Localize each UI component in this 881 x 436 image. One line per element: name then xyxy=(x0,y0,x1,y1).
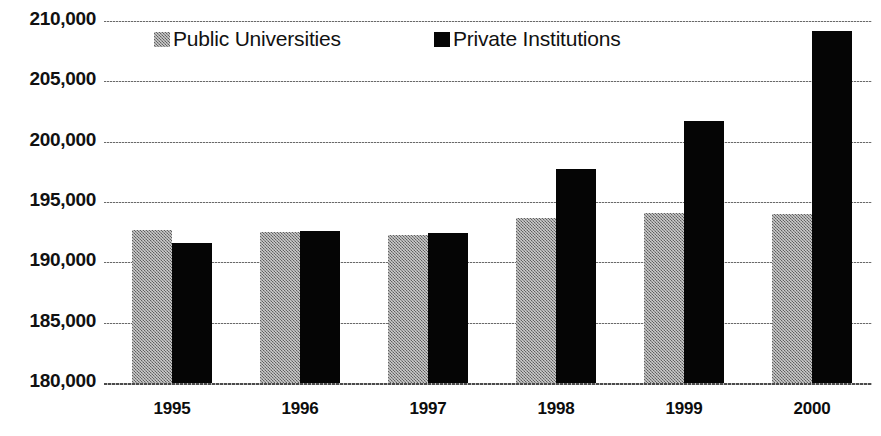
legend-swatch-private-icon xyxy=(434,32,450,47)
y-axis-tick-label: 205,000 xyxy=(8,68,96,90)
y-axis-tick-label: 200,000 xyxy=(8,129,96,151)
gridline xyxy=(104,21,872,22)
bar-1997-public xyxy=(388,235,428,383)
bar-2000-private xyxy=(812,31,852,383)
gridline xyxy=(104,202,872,203)
bar-2000-public xyxy=(772,214,812,383)
legend-label: Public Universities xyxy=(173,27,341,51)
y-axis-tick-label: 180,000 xyxy=(8,370,96,392)
bar-1995-public xyxy=(132,230,172,383)
x-axis-tick-label-2000: 2000 xyxy=(752,399,872,419)
bar-1995-private xyxy=(172,243,212,383)
axis-baseline xyxy=(104,383,872,385)
legend-entry-public[interactable]: Public Universities xyxy=(154,27,341,51)
bar-chart: 210,000205,000200,000195,000190,000185,0… xyxy=(0,0,881,436)
bar-1998-public xyxy=(516,218,556,383)
bar-1999-public xyxy=(644,213,684,383)
bar-1999-private xyxy=(684,121,724,383)
gridline xyxy=(104,81,872,82)
y-axis-tick-label: 185,000 xyxy=(8,310,96,332)
x-axis-tick-label-1996: 1996 xyxy=(240,399,360,419)
x-axis-tick-label-1997: 1997 xyxy=(368,399,488,419)
legend-label: Private Institutions xyxy=(453,27,621,51)
chart-legend: Public UniversitiesPrivate Institutions xyxy=(104,27,872,57)
x-axis-tick-label-1998: 1998 xyxy=(496,399,616,419)
plot-area xyxy=(104,0,872,436)
x-axis-tick-label-1995: 1995 xyxy=(112,399,232,419)
bar-1997-private xyxy=(428,233,468,383)
bar-1996-public xyxy=(260,232,300,383)
bar-1996-private xyxy=(300,231,340,383)
legend-swatch-public-icon xyxy=(154,32,170,47)
legend-entry-private[interactable]: Private Institutions xyxy=(434,27,621,51)
gridline xyxy=(104,142,872,143)
x-axis-tick-label-1999: 1999 xyxy=(624,399,744,419)
gridline xyxy=(104,262,872,263)
y-axis-tick-label: 195,000 xyxy=(8,189,96,211)
y-axis-tick-label: 190,000 xyxy=(8,249,96,271)
y-axis-tick-label: 210,000 xyxy=(8,8,96,30)
bar-1998-private xyxy=(556,169,596,383)
gridline xyxy=(104,323,872,324)
